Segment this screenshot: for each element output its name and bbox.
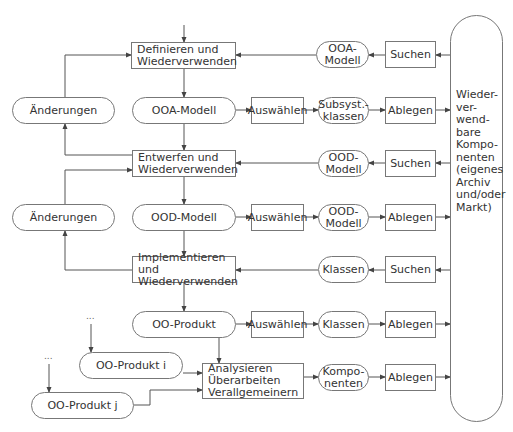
ood-modell-out-label: OOD- Modell bbox=[325, 206, 361, 230]
ellipsis-i: ... bbox=[86, 311, 95, 321]
komponenten-out-label: Kompo- nenten bbox=[323, 366, 365, 390]
auswaehlen-1: Auswählen bbox=[251, 97, 304, 124]
implementieren-step: Implementieren und Wiederverwenden bbox=[132, 256, 236, 283]
ellipsis-j: ... bbox=[44, 351, 53, 361]
suchen-3: Suchen bbox=[385, 256, 436, 283]
komponenten-out-artifact: Kompo- nenten bbox=[318, 364, 369, 391]
aenderungen-1: Änderungen bbox=[12, 97, 115, 124]
ablegen-3-label: Ablegen bbox=[388, 319, 433, 331]
ooa-modell-in-artifact: OOA- Modell bbox=[316, 41, 369, 68]
suchen-2-label: Suchen bbox=[390, 158, 431, 170]
ablegen-3: Ablegen bbox=[385, 311, 436, 338]
subsyst-klassen-artifact: Subsyst.- klassen bbox=[318, 97, 369, 124]
implementieren-label: Implementieren und Wiederverwenden bbox=[138, 252, 238, 288]
klassen-in-label: Klassen bbox=[322, 264, 364, 276]
ood-modell-in-artifact: OOD- Modell bbox=[318, 150, 369, 177]
aenderungen-1-label: Änderungen bbox=[30, 105, 97, 117]
component-repository: Wieder- ver- wend- bare Kompo- nenten (e… bbox=[450, 15, 503, 422]
suchen-1: Suchen bbox=[385, 41, 436, 68]
repository-label: Wieder- ver- wend- bare Kompo- nenten (e… bbox=[456, 89, 506, 214]
oo-produkt-j-label: OO-Produkt j bbox=[47, 400, 117, 412]
klassen-in-artifact: Klassen bbox=[318, 256, 369, 283]
auswaehlen-1-label: Auswählen bbox=[248, 105, 308, 117]
ooa-modell-label: OOA-Modell bbox=[152, 105, 216, 117]
subsyst-klassen-label: Subsyst.- klassen bbox=[318, 99, 369, 123]
klassen-out-artifact: Klassen bbox=[318, 311, 369, 338]
ablegen-4: Ablegen bbox=[385, 364, 436, 391]
definieren-step: Definieren und Wiederverwenden bbox=[131, 42, 236, 69]
auswaehlen-2: Auswählen bbox=[251, 204, 304, 231]
oo-produkt-label: OO-Produkt bbox=[152, 319, 216, 331]
auswaehlen-3: Auswählen bbox=[251, 311, 304, 338]
oo-produkt-i-artifact: OO-Produkt i bbox=[79, 352, 183, 379]
analysieren-label: Analysieren Überarbeiten Verallgemeinern bbox=[208, 363, 298, 399]
aenderungen-2: Änderungen bbox=[12, 204, 115, 231]
ood-modell-label: OOD-Modell bbox=[151, 212, 217, 224]
ablegen-2-label: Ablegen bbox=[388, 212, 433, 224]
suchen-1-label: Suchen bbox=[390, 49, 431, 61]
ood-modell-out-artifact: OOD- Modell bbox=[318, 204, 369, 231]
suchen-2: Suchen bbox=[385, 150, 436, 177]
oo-produkt-j-artifact: OO-Produkt j bbox=[31, 392, 134, 419]
ooa-modell-in-label: OOA- Modell bbox=[324, 43, 360, 67]
oo-produkt-i-label: OO-Produkt i bbox=[96, 360, 166, 372]
aenderungen-2-label: Änderungen bbox=[30, 212, 97, 224]
analysieren-step: Analysieren Überarbeiten Verallgemeinern bbox=[202, 363, 304, 399]
entwerfen-step: Entwerfen und Wiederverwenden bbox=[132, 150, 236, 177]
entwerfen-label: Entwerfen und Wiederverwenden bbox=[138, 152, 238, 176]
definieren-label: Definieren und Wiederverwenden bbox=[137, 44, 237, 68]
ablegen-2: Ablegen bbox=[385, 204, 436, 231]
ood-modell-in-label: OOD- Modell bbox=[325, 152, 361, 176]
auswaehlen-3-label: Auswählen bbox=[248, 319, 308, 331]
klassen-out-label: Klassen bbox=[322, 319, 364, 331]
ablegen-1-label: Ablegen bbox=[388, 105, 433, 117]
suchen-3-label: Suchen bbox=[390, 264, 431, 276]
ooa-modell-artifact: OOA-Modell bbox=[132, 97, 236, 124]
oo-produkt-artifact: OO-Produkt bbox=[132, 311, 236, 338]
ablegen-1: Ablegen bbox=[385, 97, 436, 124]
auswaehlen-2-label: Auswählen bbox=[248, 212, 308, 224]
ablegen-4-label: Ablegen bbox=[388, 372, 433, 384]
ood-modell-artifact: OOD-Modell bbox=[132, 204, 236, 231]
